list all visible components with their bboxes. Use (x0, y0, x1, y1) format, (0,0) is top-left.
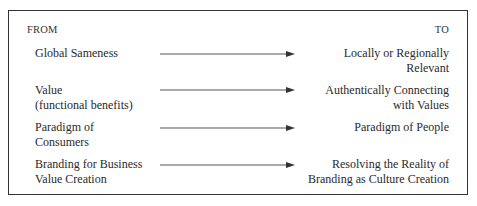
from-line: Global Sameness (35, 46, 118, 61)
to-line: Authentically Connecting (325, 83, 449, 98)
from-label-value: Value (functional benefits) (35, 83, 133, 113)
from-line: Consumers (35, 135, 94, 150)
arrow-icon (160, 124, 295, 132)
to-line: Locally or Regionally (344, 46, 449, 61)
to-header: TO (435, 24, 449, 35)
to-line: Branding as Culture Creation (308, 172, 449, 187)
from-label-global-sameness: Global Sameness (35, 46, 118, 61)
from-line: Branding for Business (35, 157, 142, 172)
from-line: Paradigm of (35, 120, 94, 135)
to-label-authentically-connecting: Authentically Connecting with Values (325, 83, 449, 113)
arrow-icon (160, 50, 295, 58)
from-label-paradigm-consumers: Paradigm of Consumers (35, 120, 94, 150)
to-line: Relevant (344, 61, 449, 76)
from-line: (functional benefits) (35, 98, 133, 113)
to-label-resolving-reality: Resolving the Reality of Branding as Cul… (308, 157, 449, 187)
arrow-icon (160, 86, 295, 94)
from-line: Value (35, 83, 133, 98)
to-label-locally-relevant: Locally or Regionally Relevant (344, 46, 449, 76)
to-line: Paradigm of People (354, 120, 449, 135)
to-label-paradigm-people: Paradigm of People (354, 120, 449, 135)
to-line: with Values (325, 98, 449, 113)
from-line: Value Creation (35, 172, 142, 187)
from-label-branding-business: Branding for Business Value Creation (35, 157, 142, 187)
to-line: Resolving the Reality of (308, 157, 449, 172)
arrow-icon (160, 161, 295, 169)
from-header: FROM (27, 24, 58, 35)
